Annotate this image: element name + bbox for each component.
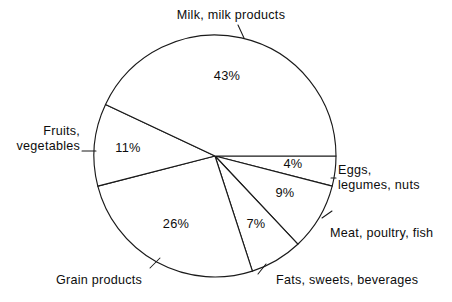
slice-label-meat-poultry-fish-line1: Meat, poultry, fish bbox=[330, 226, 433, 241]
slice-label-grain-products-line1: Grain products bbox=[56, 273, 142, 288]
pie-chart-figure: 4% 9% 7% 26% 11% 43% Milk, milk products… bbox=[0, 0, 452, 302]
slice-label-milk-line1: Milk, milk products bbox=[177, 8, 285, 23]
slice-label-fats-sweets-beverages-line1: Fats, sweets, beverages bbox=[276, 273, 418, 288]
slice-value-meat: 9% bbox=[275, 185, 294, 200]
slice-label-meat-poultry-fish: Meat, poultry, fish bbox=[330, 226, 433, 241]
slice-label-fruits-vegetables: Fruits, vegetables bbox=[17, 124, 80, 154]
slice-label-eggs-legumes-nuts-line1: Eggs, bbox=[338, 163, 420, 178]
slice-label-grain-products: Grain products bbox=[56, 273, 142, 288]
slice-value-fruits: 11% bbox=[115, 140, 140, 155]
slice-label-eggs-legumes-nuts-line2: legumes, nuts bbox=[338, 178, 420, 193]
leader-line-milk bbox=[238, 25, 244, 38]
slice-label-fruits-vegetables-line2: vegetables bbox=[17, 139, 80, 154]
slice-label-fats-sweets-beverages: Fats, sweets, beverages bbox=[276, 273, 418, 288]
slice-label-milk: Milk, milk products bbox=[177, 8, 285, 23]
slice-label-fruits-vegetables-line1: Fruits, bbox=[17, 124, 80, 139]
slice-value-fats: 7% bbox=[246, 216, 265, 231]
slice-label-eggs-legumes-nuts: Eggs, legumes, nuts bbox=[338, 163, 420, 193]
slice-value-milk: 43% bbox=[214, 68, 240, 83]
slice-value-grain: 26% bbox=[163, 216, 189, 231]
leader-line-meat-poultry-fish bbox=[322, 211, 332, 218]
slice-value-eggs: 4% bbox=[283, 156, 302, 171]
